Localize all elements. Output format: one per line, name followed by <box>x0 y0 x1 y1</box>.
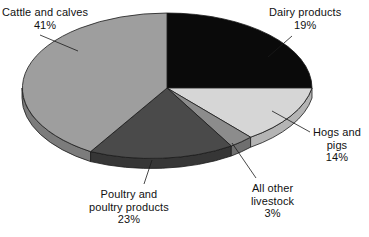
label-other-line2: livestock <box>251 195 294 208</box>
label-other-percent: 3% <box>251 207 294 220</box>
label-dairy-line1: Dairy products <box>269 6 341 18</box>
label-hogs-percent: 14% <box>313 151 361 164</box>
label-all-other-livestock: All other livestock 3% <box>251 182 294 220</box>
label-poultry-percent: 23% <box>89 213 169 226</box>
label-cattle-percent: 41% <box>2 19 88 32</box>
label-cattle-and-calves: Cattle and calves 41% <box>2 6 88 31</box>
pie-chart: Cattle and calves 41% Dairy products 19%… <box>0 0 369 237</box>
label-other-line1: All other <box>252 182 293 194</box>
label-poultry-and-poultry-products: Poultry and poultry products 23% <box>89 188 169 226</box>
label-hogs-line1: Hogs and <box>313 126 361 138</box>
label-hogs-line2: pigs <box>313 139 361 152</box>
label-poultry-line1: Poultry and <box>101 188 158 200</box>
label-dairy-products: Dairy products 19% <box>269 6 341 31</box>
label-hogs-and-pigs: Hogs and pigs 14% <box>313 126 361 164</box>
label-poultry-line2: poultry products <box>89 201 169 214</box>
label-dairy-percent: 19% <box>269 19 341 32</box>
label-cattle-line1: Cattle and calves <box>2 6 88 18</box>
pie-chart-graphic <box>0 0 369 237</box>
